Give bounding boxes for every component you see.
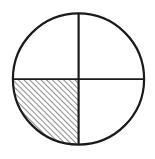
figure-root: Circle divided into four quadrants with …: [0, 0, 155, 159]
quartered-circle-diagram: Circle divided into four quadrants with …: [0, 0, 155, 159]
